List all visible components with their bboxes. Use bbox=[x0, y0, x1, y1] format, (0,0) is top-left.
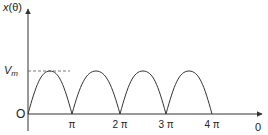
x-tick-3pi: 3 π bbox=[158, 120, 173, 130]
x-tick-pi: π bbox=[69, 120, 76, 130]
x-tick-2pi: 2 π bbox=[112, 120, 127, 130]
x-tick-4pi: 4 π bbox=[204, 120, 219, 130]
peak-label: Vm bbox=[4, 65, 18, 78]
rectified-sine-curve bbox=[28, 71, 212, 114]
y-axis-label: x(θ) bbox=[3, 2, 22, 13]
waveform-plot bbox=[0, 0, 268, 135]
origin-label: O bbox=[16, 108, 25, 120]
x-axis-end-label: 0 bbox=[255, 122, 261, 133]
